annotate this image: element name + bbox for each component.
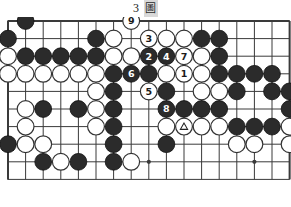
- black-stone[interactable]: [158, 83, 175, 100]
- white-stone[interactable]: [193, 65, 210, 82]
- black-stone[interactable]: [264, 83, 281, 100]
- stone-disc: [0, 65, 16, 82]
- stone-disc: [35, 136, 52, 153]
- white-stone[interactable]: [193, 118, 210, 135]
- white-stone[interactable]: [35, 136, 52, 153]
- black-stone[interactable]: [17, 48, 34, 65]
- stone-disc: [17, 101, 34, 118]
- black-stone[interactable]: [105, 65, 122, 82]
- stone-disc: [70, 65, 87, 82]
- white-stone[interactable]: 1: [176, 65, 193, 82]
- black-stone[interactable]: [176, 101, 193, 118]
- black-stone[interactable]: 8: [158, 101, 175, 118]
- white-stone[interactable]: [0, 48, 16, 65]
- black-stone[interactable]: [105, 153, 122, 170]
- white-stone[interactable]: [17, 65, 34, 82]
- black-stone[interactable]: [70, 48, 87, 65]
- white-stone[interactable]: [193, 48, 210, 65]
- white-stone[interactable]: [88, 118, 105, 135]
- white-stone[interactable]: [176, 118, 193, 135]
- black-stone[interactable]: [35, 153, 52, 170]
- stone-disc: [105, 136, 122, 153]
- white-stone[interactable]: [0, 65, 16, 82]
- stone-disc: [228, 118, 245, 135]
- stone-disc: [88, 118, 105, 135]
- black-stone[interactable]: [246, 118, 263, 135]
- white-stone[interactable]: [123, 48, 140, 65]
- stone-disc: [52, 65, 69, 82]
- black-stone[interactable]: [211, 30, 228, 47]
- white-stone[interactable]: [88, 65, 105, 82]
- white-stone[interactable]: [52, 153, 69, 170]
- black-stone[interactable]: [228, 65, 245, 82]
- stone-disc: [105, 118, 122, 135]
- white-stone[interactable]: [246, 136, 263, 153]
- stone-disc: [0, 48, 16, 65]
- black-stone[interactable]: [193, 101, 210, 118]
- black-stone[interactable]: [88, 48, 105, 65]
- black-stone[interactable]: 6: [123, 65, 140, 82]
- black-stone[interactable]: [70, 101, 87, 118]
- white-stone[interactable]: [105, 48, 122, 65]
- white-stone[interactable]: [17, 118, 34, 135]
- white-stone[interactable]: [17, 101, 34, 118]
- black-stone[interactable]: [0, 30, 16, 47]
- white-stone[interactable]: [105, 30, 122, 47]
- white-stone[interactable]: [211, 118, 228, 135]
- stone-disc: [105, 101, 122, 118]
- stone-disc: [158, 136, 175, 153]
- stone-disc: [105, 48, 122, 65]
- white-stone[interactable]: [88, 101, 105, 118]
- stone-disc: [246, 65, 263, 82]
- white-stone[interactable]: [211, 83, 228, 100]
- black-stone[interactable]: [246, 65, 263, 82]
- black-stone[interactable]: [70, 153, 87, 170]
- white-stone[interactable]: [70, 65, 87, 82]
- stone-disc: [17, 136, 34, 153]
- black-stone[interactable]: 4: [158, 48, 175, 65]
- black-stone[interactable]: [105, 83, 122, 100]
- black-stone[interactable]: [228, 83, 245, 100]
- black-stone[interactable]: [35, 101, 52, 118]
- white-stone[interactable]: 7: [176, 48, 193, 65]
- white-stone[interactable]: 3: [140, 30, 157, 47]
- black-stone[interactable]: [52, 48, 69, 65]
- white-stone[interactable]: [35, 65, 52, 82]
- white-stone[interactable]: [88, 83, 105, 100]
- black-stone[interactable]: [264, 65, 281, 82]
- black-stone[interactable]: [105, 136, 122, 153]
- white-stone[interactable]: [158, 118, 175, 135]
- white-stone[interactable]: 5: [140, 83, 157, 100]
- black-stone[interactable]: [193, 30, 210, 47]
- white-stone[interactable]: [52, 65, 69, 82]
- go-board[interactable]: 932476158: [0, 17, 291, 207]
- black-stone[interactable]: [105, 118, 122, 135]
- stone-disc: [264, 65, 281, 82]
- black-stone[interactable]: [228, 118, 245, 135]
- white-stone[interactable]: [17, 136, 34, 153]
- black-stone[interactable]: [35, 48, 52, 65]
- black-stone[interactable]: [17, 17, 34, 29]
- black-stone[interactable]: 2: [140, 48, 157, 65]
- stone-disc: [158, 118, 175, 135]
- black-stone[interactable]: [88, 30, 105, 47]
- stone-disc: [105, 30, 122, 47]
- stone-disc: [228, 65, 245, 82]
- white-stone[interactable]: [228, 136, 245, 153]
- white-stone[interactable]: [158, 65, 175, 82]
- black-stone[interactable]: [140, 65, 157, 82]
- white-stone[interactable]: [158, 30, 175, 47]
- white-stone[interactable]: [193, 83, 210, 100]
- white-stone[interactable]: 9: [123, 17, 140, 29]
- white-stone[interactable]: [123, 153, 140, 170]
- black-stone[interactable]: [105, 101, 122, 118]
- black-stone[interactable]: [264, 118, 281, 135]
- figure-label-glyph: 圖: [144, 0, 158, 17]
- white-stone[interactable]: [176, 30, 193, 47]
- black-stone[interactable]: [211, 101, 228, 118]
- black-stone[interactable]: [211, 48, 228, 65]
- black-stone[interactable]: [158, 136, 175, 153]
- black-stone[interactable]: [0, 136, 16, 153]
- go-board-canvas[interactable]: 932476158: [0, 17, 291, 207]
- black-stone[interactable]: [211, 65, 228, 82]
